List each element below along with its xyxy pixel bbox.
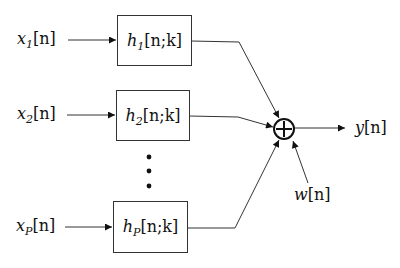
filter-block-1: h1[n;k] — [117, 15, 192, 66]
filter-label-1: h1[n;k] — [127, 33, 182, 49]
diagram-canvas — [0, 0, 400, 268]
filter-block-2: h2[n;k] — [116, 90, 190, 141]
filter-label-p: hP[n;k] — [123, 219, 179, 235]
filter-block-p: hP[n;k] — [113, 201, 188, 253]
input-label-1: x1[n] — [17, 31, 56, 47]
noise-arrow — [293, 141, 308, 183]
filter-label-2: h2[n;k] — [125, 108, 180, 124]
summing-junction-icon — [274, 119, 294, 139]
path-h1-to-sum — [191, 41, 279, 118]
path-h2-to-sum — [189, 116, 273, 127]
output-label: y[n] — [355, 120, 387, 136]
path-hp-to-sum — [187, 140, 279, 228]
noise-label: w[n] — [294, 187, 331, 203]
input-label-2: x2[n] — [17, 106, 56, 122]
input-label-p: xP[n] — [16, 218, 55, 234]
ellipsis-dots-icon — [147, 155, 152, 189]
